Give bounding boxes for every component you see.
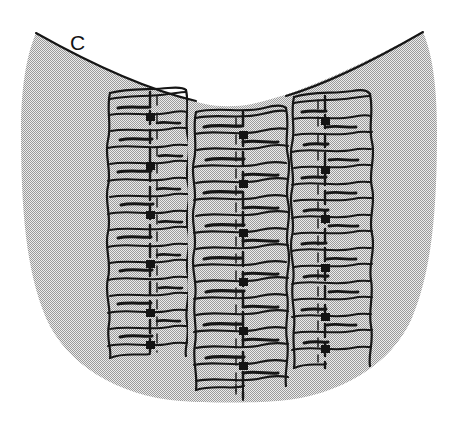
figure-illustration <box>0 0 457 424</box>
figure-panel: C <box>0 0 457 424</box>
